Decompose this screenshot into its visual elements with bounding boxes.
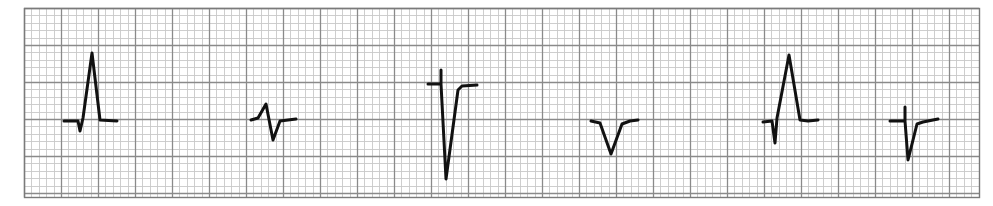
ecg-canvas bbox=[0, 0, 993, 206]
ecg-strip bbox=[0, 0, 993, 206]
grid-paper bbox=[24, 8, 979, 197]
